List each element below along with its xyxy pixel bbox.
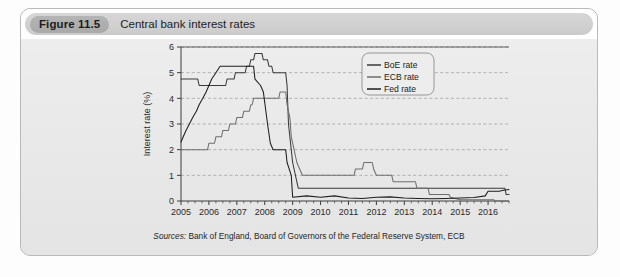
svg-text:1: 1 [169,171,174,181]
source-caption: Sources: Bank of England, Board of Gover… [21,231,597,241]
svg-text:6: 6 [169,42,174,52]
data-series [181,53,509,201]
x-tick-labels: 2005200620072008200920102011201220132014… [171,201,509,217]
svg-text:2005: 2005 [171,207,191,217]
svg-text:2007: 2007 [227,207,247,217]
figure-header-background [25,13,593,35]
svg-text:3: 3 [169,119,174,129]
svg-text:Fed rate: Fed rate [384,84,416,94]
figure-header: Figure 11.5 Central bank interest rates [21,9,597,39]
svg-text:2010: 2010 [311,207,331,217]
svg-text:Interest rate (%): Interest rate (%) [142,92,152,157]
svg-text:BoE rate: BoE rate [384,60,418,70]
svg-text:2006: 2006 [199,207,219,217]
svg-text:2008: 2008 [255,207,275,217]
svg-text:0: 0 [169,196,174,206]
svg-text:2014: 2014 [422,207,442,217]
svg-text:2012: 2012 [366,207,386,217]
y-axis-title: Interest rate (%) [142,92,152,157]
figure-screenshot: Figure 11.5 Central bank interest rates … [0,0,620,277]
chart-area: 0123456 20052006200720082009201020112012… [21,39,598,229]
svg-text:2013: 2013 [394,207,414,217]
svg-text:2: 2 [169,145,174,155]
svg-text:ECB rate: ECB rate [384,72,419,82]
svg-text:2015: 2015 [450,207,470,217]
figure-title: Central bank interest rates [120,18,255,30]
y-tick-labels: 0123456 [169,42,181,206]
figure-number-pill: Figure 11.5 [30,16,109,33]
interest-rates-line-chart: 0123456 20052006200720082009201020112012… [21,39,598,229]
svg-text:2016: 2016 [478,207,498,217]
svg-text:2011: 2011 [339,207,358,217]
figure-card: Figure 11.5 Central bank interest rates … [20,8,598,256]
svg-text:2009: 2009 [283,207,303,217]
figure-body: 0123456 20052006200720082009201020112012… [21,39,597,256]
svg-text:4: 4 [169,94,174,104]
source-text: Bank of England, Board of Governors of t… [186,231,465,241]
svg-text:5: 5 [169,68,174,78]
chart-legend: BoE rateECB rateFed rate [362,53,434,95]
source-prefix: Sources: [153,231,186,241]
